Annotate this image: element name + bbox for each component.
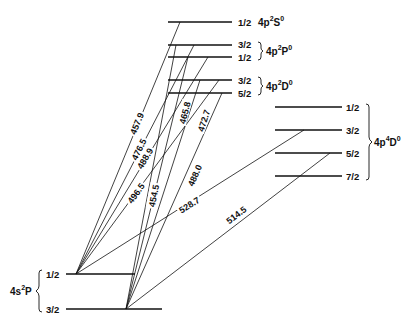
- term-4p2P0: 4p2P0: [266, 44, 292, 57]
- level-lines: [66, 22, 342, 309]
- j-label: 1/2: [346, 102, 359, 113]
- j-label: 5/2: [238, 88, 251, 99]
- j-label: 7/2: [346, 171, 359, 182]
- j-label: 3/2: [238, 75, 251, 86]
- j-label: 3/2: [46, 304, 59, 315]
- brace-4D: [366, 104, 372, 180]
- wavelength-label: 465.8: [177, 101, 192, 125]
- wavelength-label: 528.7: [177, 195, 201, 215]
- transition-457-9: [76, 22, 180, 274]
- brace-2D: [258, 77, 263, 95]
- term-4s2P: 4s2P: [10, 284, 32, 297]
- j-label: 5/2: [346, 148, 359, 159]
- braces: [36, 42, 372, 312]
- energy-level-diagram: 1/2 3/2 1/2 3/2 5/2 1/2 3/2 5/2 7/2 1/2 …: [0, 0, 413, 323]
- wavelength-label: 514.5: [224, 204, 248, 226]
- term-4p4D0: 4p4D0: [374, 135, 401, 148]
- brace-4s: [36, 270, 42, 312]
- j-label: 3/2: [346, 125, 359, 136]
- wavelength-label: 457.9: [128, 111, 146, 136]
- j-label: 1/2: [46, 269, 59, 280]
- term-4p2S0: 4p2S0: [258, 15, 284, 28]
- term-4p2D0: 4p2D0: [266, 79, 293, 92]
- wavelength-label: 496.5: [126, 181, 147, 205]
- j-label: 1/2: [238, 52, 251, 63]
- transition-465-8: [126, 57, 188, 309]
- wavelength-labels: 457.9 476.5 488.9 496.5 465.8 454.5 472.…: [124, 99, 250, 227]
- wavelength-label: 488.0: [186, 163, 204, 188]
- brace-2P: [258, 42, 263, 60]
- j-label: 1/2: [238, 17, 251, 28]
- j-label: 3/2: [238, 39, 251, 50]
